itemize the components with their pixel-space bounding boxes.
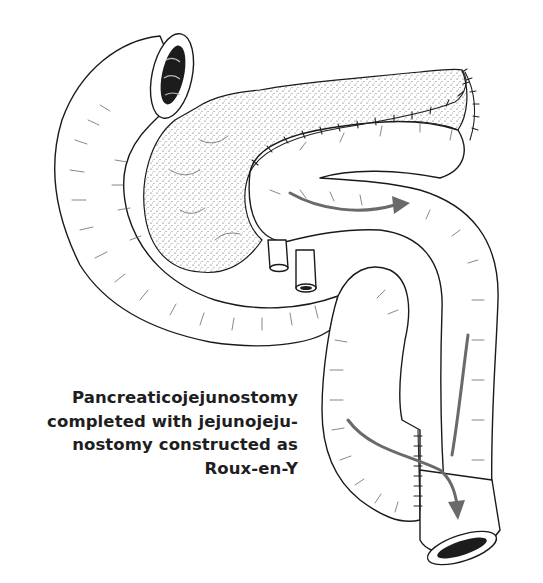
duct-stumps bbox=[268, 240, 316, 292]
surgical-illustration bbox=[0, 0, 543, 583]
caption-line-4: Roux-en-Y bbox=[20, 457, 298, 481]
distal-lumen bbox=[420, 470, 500, 571]
caption-line-2: completed with jejunojeju- bbox=[20, 410, 298, 434]
jejunal-loop bbox=[322, 267, 420, 521]
caption-line-3: nostomy constructed as bbox=[20, 433, 298, 457]
figure-caption: Pancreaticojejunostomy completed with je… bbox=[20, 386, 298, 480]
caption-line-1: Pancreaticojejunostomy bbox=[20, 386, 298, 410]
